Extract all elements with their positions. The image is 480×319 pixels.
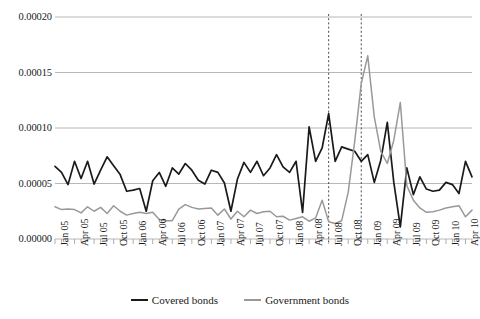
x-tick-label: Apr 05 xyxy=(79,219,90,246)
y-tick-label: 0.00000 xyxy=(0,233,52,244)
x-tick-label: Jul 06 xyxy=(176,222,187,246)
y-tick-label: 0.00015 xyxy=(0,67,52,78)
x-tick-label: Oct 07 xyxy=(274,220,285,246)
y-tick-label: 0.00010 xyxy=(0,122,52,133)
x-tick-label: Oct 05 xyxy=(118,220,129,246)
x-tick-label: Apr 06 xyxy=(157,219,168,246)
x-tick-label: Jan 05 xyxy=(59,221,70,246)
x-tick-label: Jan 10 xyxy=(450,221,461,246)
legend-label-government-bonds: Government bonds xyxy=(265,294,349,306)
x-tick-label: Jul 07 xyxy=(254,222,265,246)
gridlines xyxy=(55,17,472,239)
x-tick-label: Jan 09 xyxy=(372,221,383,246)
legend-label-covered-bonds: Covered bonds xyxy=(152,294,218,306)
x-tick-label: Jul 08 xyxy=(333,222,344,246)
legend-swatch-government-bonds xyxy=(244,299,261,301)
x-tick-label: Apr 07 xyxy=(235,219,246,246)
x-tick-label: Apr 09 xyxy=(391,219,402,246)
x-tick-label: Apr 08 xyxy=(313,219,324,246)
x-tick-label: Jan 08 xyxy=(294,221,305,246)
x-tick-label: Oct 08 xyxy=(352,220,363,246)
x-tick-label: Jan 06 xyxy=(137,221,148,246)
x-tick-label: Oct 06 xyxy=(196,220,207,246)
legend-item-government-bonds: Government bonds xyxy=(244,294,349,306)
y-tick-label: 0.00005 xyxy=(0,178,52,189)
x-tick-label: Jul 09 xyxy=(411,222,422,246)
x-tick-label: Oct 09 xyxy=(430,220,441,246)
chart-legend: Covered bonds Government bonds xyxy=(0,294,480,306)
legend-item-covered-bonds: Covered bonds xyxy=(131,294,218,306)
y-tick-label: 0.00020 xyxy=(0,11,52,22)
series-lines xyxy=(55,56,472,227)
legend-swatch-covered-bonds xyxy=(131,299,148,301)
x-tick-label: Apr 10 xyxy=(469,219,480,246)
x-tick-label: Jan 07 xyxy=(215,221,226,246)
line-chart: 0.000000.000050.000100.000150.00020 Jan … xyxy=(0,0,480,319)
x-tick-label: Jul 05 xyxy=(98,222,109,246)
chart-canvas xyxy=(0,0,480,319)
